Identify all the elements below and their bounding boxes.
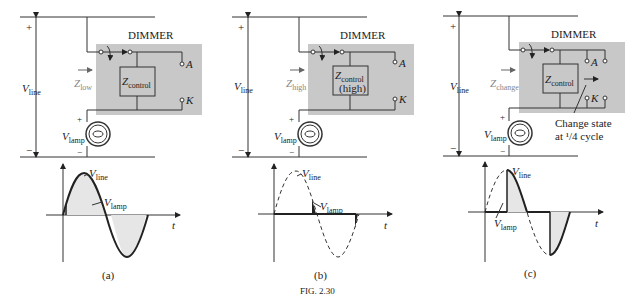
plus-sign: + (238, 22, 244, 33)
t-text: t (172, 219, 175, 231)
panel-c-waveform (468, 162, 603, 262)
lamp-icon (508, 121, 532, 145)
wave-vline-b: Vline (302, 168, 321, 182)
zc-sub: control (128, 81, 151, 90)
z-change-label: Zchange (490, 78, 519, 92)
terminal-k: K (186, 95, 193, 106)
minus-sign: − (450, 143, 456, 154)
v-lamp-label-a: Vlamp (62, 131, 85, 145)
v-symbol: V (320, 200, 327, 212)
v-symbol: V (274, 130, 281, 142)
t-axis-label-c: t (595, 218, 598, 229)
lamp-plus: + (289, 115, 294, 124)
v-sub: line (457, 86, 469, 95)
terminal-k-text: K (186, 94, 193, 106)
terminal-a: A (399, 58, 406, 69)
v-sub: line (519, 171, 531, 180)
dimmer-label-a: DIMMER (128, 30, 173, 41)
panel-b-circuit (232, 17, 414, 157)
v-sub: lamp (327, 206, 343, 215)
v-symbol: V (494, 217, 501, 229)
lamp-icon (298, 122, 322, 146)
z-control-label-c: Zcontrol (545, 74, 574, 88)
t-axis-label-a: t (172, 220, 175, 231)
caption-b: (b) (314, 270, 327, 281)
v-symbol: V (484, 128, 491, 140)
v-sub: lamp (501, 223, 517, 232)
terminal-k: K (591, 93, 598, 104)
v-symbol: V (22, 82, 29, 94)
wave-vline-c: Vline (512, 166, 531, 180)
terminal-a: A (186, 59, 193, 70)
v-sub: lamp (69, 136, 85, 145)
v-lamp-label-c: Vlamp (484, 129, 507, 143)
terminal-a-text: A (186, 58, 193, 70)
z-control-label-a: Zcontrol (122, 76, 151, 90)
v-symbol: V (302, 167, 309, 179)
annotation-change-state: Change state (555, 118, 612, 129)
v-line-label-a: Vline (22, 83, 41, 97)
v-sub: line (29, 88, 41, 97)
minus-sign: − (26, 145, 32, 156)
v-symbol: V (450, 80, 457, 92)
z-sub: change (496, 83, 519, 92)
v-symbol: V (89, 167, 96, 179)
lamp-minus: − (289, 148, 294, 157)
z-control-high: (high) (339, 83, 366, 94)
lamp-plus: + (500, 113, 505, 122)
v-symbol: V (234, 80, 241, 92)
wave-vlamp-c: Vlamp (494, 218, 517, 232)
lamp-icon (86, 122, 110, 146)
z-low-label: Zlow (74, 78, 92, 92)
figure-caption: FIG. 2.30 (300, 287, 335, 296)
lamp-minus: − (77, 148, 82, 157)
dimmer-label-c: DIMMER (551, 29, 596, 40)
lamp-minus: − (500, 147, 505, 156)
terminal-k-text: K (591, 92, 598, 104)
v-sub: lamp (281, 136, 297, 145)
z-high-label: Zhigh (286, 78, 306, 92)
v-sub: lamp (111, 202, 127, 211)
z-sub: low (80, 83, 92, 92)
v-symbol: V (62, 130, 69, 142)
t-text: t (384, 219, 387, 231)
caption-c: (c) (524, 268, 536, 279)
t-text: t (595, 217, 598, 229)
terminal-a-text: A (399, 57, 406, 69)
dimmer-label-b: DIMMER (340, 30, 385, 41)
zc-sub: control (551, 79, 574, 88)
terminal-k-text: K (399, 93, 406, 105)
annotation-quarter-cycle: at ¹/4 cycle (555, 131, 604, 142)
v-line-label-b: Vline (234, 81, 253, 95)
v-symbol: V (512, 165, 519, 177)
v-sub: line (241, 86, 253, 95)
wave-vlamp-a: Vlamp (104, 197, 127, 211)
wave-vlamp-b: Vlamp (320, 201, 343, 215)
minus-sign: − (238, 145, 244, 156)
panel-a-waveform (46, 164, 180, 262)
panel-a-circuit (20, 17, 202, 157)
t-axis-label-b: t (384, 220, 387, 231)
terminal-a-text: A (591, 56, 598, 68)
v-sub: lamp (491, 134, 507, 143)
caption-a: (a) (102, 270, 114, 281)
terminal-k: K (399, 94, 406, 105)
v-lamp-label-b: Vlamp (274, 131, 297, 145)
plus-sign: + (26, 22, 32, 33)
z-sub: high (292, 83, 306, 92)
wave-vline-a: Vline (89, 168, 108, 182)
v-sub: line (309, 173, 321, 182)
terminal-a: A (591, 57, 598, 68)
plus-sign: + (450, 21, 456, 32)
v-symbol: V (104, 196, 111, 208)
v-line-label-c: Vline (450, 81, 469, 95)
v-sub: line (96, 173, 108, 182)
lamp-plus: + (77, 115, 82, 124)
